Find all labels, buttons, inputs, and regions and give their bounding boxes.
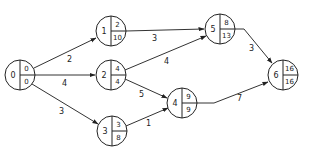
edge-0-2: 4 xyxy=(35,75,95,88)
edge-3-4: 1 xyxy=(126,108,168,128)
node-id: 3 xyxy=(102,127,107,136)
edge-weight-2-5: 4 xyxy=(164,57,169,66)
node-earliest: 0 xyxy=(24,65,28,73)
edge-weight-4-6: 7 xyxy=(237,94,242,103)
node-earliest: 4 xyxy=(115,65,120,73)
edge-weight-2-4: 5 xyxy=(139,90,144,99)
edge-2-5: 4 xyxy=(125,36,206,70)
edge-weight-0-1: 2 xyxy=(67,55,72,64)
node-1: 1 2 10 xyxy=(96,16,126,46)
node-earliest: 8 xyxy=(224,19,228,27)
edge-weight-0-2: 4 xyxy=(62,79,67,88)
node-earliest: 9 xyxy=(186,93,190,101)
edge-weight-3-4: 1 xyxy=(146,119,151,128)
edges: 2 4 3 3 4 5 1 3 xyxy=(32,29,272,128)
node-latest: 8 xyxy=(116,134,120,142)
node-latest: 10 xyxy=(113,34,122,42)
node-2: 2 4 4 xyxy=(96,60,126,90)
node-latest: 16 xyxy=(285,78,294,86)
node-id: 5 xyxy=(210,25,215,34)
node-0: 0 0 0 xyxy=(5,60,35,90)
node-5: 5 8 13 xyxy=(205,14,235,44)
activity-network-diagram: 2 4 3 3 4 5 1 3 xyxy=(0,0,313,158)
edge-0-1: 2 xyxy=(34,38,96,68)
node-latest: 0 xyxy=(24,78,28,86)
node-id: 6 xyxy=(273,71,278,80)
edge-weight-5-6: 3 xyxy=(249,44,254,53)
node-earliest: 3 xyxy=(116,121,120,129)
node-id: 4 xyxy=(172,99,177,108)
node-id: 2 xyxy=(101,71,106,80)
edge-1-5: 3 xyxy=(126,29,204,43)
edge-weight-0-3: 3 xyxy=(59,107,64,116)
node-4: 4 9 9 xyxy=(167,88,197,118)
node-6: 6 16 16 xyxy=(268,60,298,90)
node-earliest: 16 xyxy=(285,65,294,73)
edge-4-6: 7 xyxy=(197,82,268,103)
node-earliest: 2 xyxy=(115,21,119,29)
edge-5-6: 3 xyxy=(235,29,272,63)
edge-2-4: 5 xyxy=(125,79,167,99)
edge-weight-1-5: 3 xyxy=(152,34,157,43)
node-3: 3 3 8 xyxy=(97,116,127,146)
node-latest: 4 xyxy=(115,78,120,86)
node-id: 1 xyxy=(101,27,106,36)
edge-0-3: 3 xyxy=(32,84,98,124)
node-latest: 13 xyxy=(222,32,231,40)
node-id: 0 xyxy=(10,71,15,80)
node-latest: 9 xyxy=(186,106,190,114)
